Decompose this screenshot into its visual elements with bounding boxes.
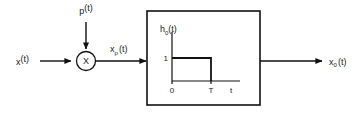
impulse-response-label: h0(t) xyxy=(160,24,177,36)
plot-x-tick-label-0: 0 xyxy=(170,86,175,95)
label-carrier-signal: p(t) xyxy=(79,3,93,16)
xo-label-sub: 0 xyxy=(334,62,338,68)
p-label-arg: (t) xyxy=(84,3,93,13)
x-label-arg: (t) xyxy=(21,54,30,64)
xp-label-sub: p xyxy=(115,50,119,56)
h-label-arg: (t) xyxy=(168,24,177,34)
svg-text:xp(t): xp(t) xyxy=(110,44,128,56)
svg-text:h0(t): h0(t) xyxy=(160,24,177,36)
svg-text:p(t): p(t) xyxy=(79,3,93,16)
plot-y-tick-label: 1 xyxy=(164,54,169,63)
multiplier-glyph: X xyxy=(83,56,89,66)
xp-label-arg: (t) xyxy=(119,44,128,54)
diagram-canvas: X 1 0 T t xyxy=(0,0,364,125)
plot-x-tick-label-T: T xyxy=(209,86,214,95)
label-sampled-signal: xp(t) xyxy=(110,44,128,56)
label-output-signal: x0(t) xyxy=(329,57,347,69)
svg-text:x0(t): x0(t) xyxy=(329,57,347,69)
xo-label-arg: (t) xyxy=(338,57,347,67)
svg-text:x(t): x(t) xyxy=(16,54,29,67)
block-diagram-figure: X 1 0 T t xyxy=(0,0,364,125)
label-input-signal: x(t) xyxy=(16,54,29,67)
multiplier-node: X xyxy=(77,52,96,71)
